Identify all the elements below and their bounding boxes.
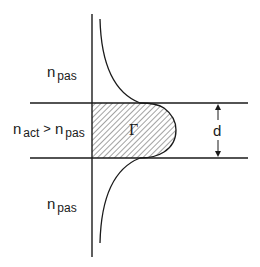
label-bottom-n-pas: npas (47, 196, 77, 212)
n-subscript: pas (57, 69, 76, 83)
n-symbol: n (55, 120, 63, 137)
label-thickness-d: d (213, 123, 221, 138)
greater-than-sign: > (43, 121, 51, 136)
label-middle-n-act-gt-n-pas: nact>npas (13, 121, 85, 137)
label-top-n-pas: npas (47, 64, 77, 80)
n-symbol: n (47, 63, 55, 80)
diagram-canvas: npas nact>npas npas Γ d (0, 0, 260, 267)
n-symbol: n (47, 195, 55, 212)
n-symbol: n (13, 120, 21, 137)
n-subscript: act (23, 126, 39, 140)
n-subscript: pas (65, 126, 84, 140)
label-confinement-factor: Γ (129, 122, 138, 138)
n-subscript: pas (57, 201, 76, 215)
